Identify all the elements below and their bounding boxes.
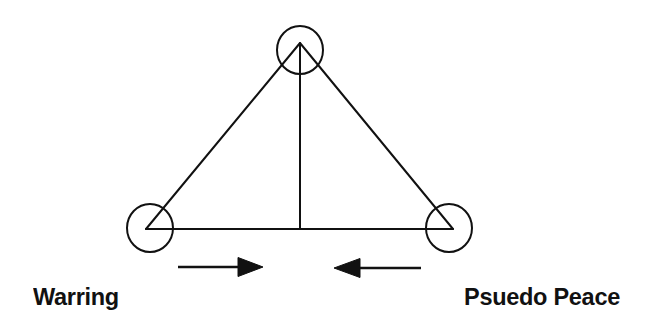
triangle	[146, 43, 453, 229]
direction-arrows	[178, 258, 421, 278]
label-warring: Warring	[33, 283, 119, 311]
triangle-right-edge	[300, 43, 453, 229]
triangle-diagram: Warring Psuedo Peace	[0, 0, 653, 335]
triangle-left-edge	[146, 43, 300, 229]
arrow-left-icon	[334, 259, 421, 278]
arrow-right-icon	[178, 258, 263, 277]
arrow-left-head	[334, 259, 360, 278]
arrow-right-head	[238, 258, 263, 277]
label-psuedo-peace: Psuedo Peace	[464, 283, 620, 311]
